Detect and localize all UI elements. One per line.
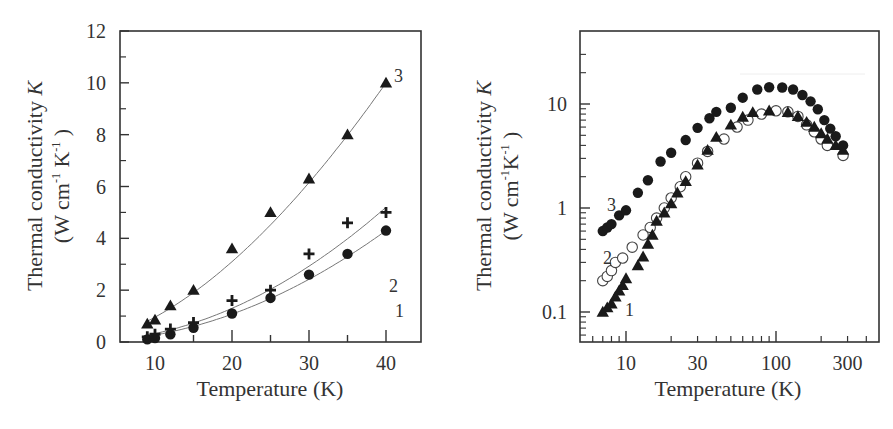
right-y-axis-title: Thermal conductivity K (W cm-1K-1 ) xyxy=(471,80,523,292)
right-series-label-3: 3 xyxy=(607,195,616,215)
right-y-tick-label: 1 xyxy=(557,197,567,219)
left-y-tick-label: 2 xyxy=(96,279,106,301)
left-point-series-1 xyxy=(342,249,352,259)
right-series-label-2: 2 xyxy=(603,248,612,268)
right-point-series-3 xyxy=(692,123,702,133)
left-point-series-3 xyxy=(226,243,238,254)
left-series-label-3: 3 xyxy=(394,66,403,86)
right-point-series-1 xyxy=(637,251,649,262)
right-point-series-3 xyxy=(621,205,631,215)
right-x-tick-label: 100 xyxy=(761,352,791,374)
right-point-series-3 xyxy=(606,219,616,229)
right-point-series-3 xyxy=(726,103,736,113)
left-y-tick-label: 6 xyxy=(96,176,106,198)
svg-text:Thermal conductivity K: Thermal conductivity K xyxy=(471,80,496,292)
left-y-axis-title: Thermal conductivity K (W cm-1 K-1 ) xyxy=(22,80,74,292)
right-point-series-3 xyxy=(830,131,840,141)
left-point-series-2 xyxy=(227,295,238,306)
left-x-tick-label: 40 xyxy=(376,352,396,374)
left-point-series-2 xyxy=(304,248,315,259)
left-point-series-3 xyxy=(380,77,392,88)
figure-canvas: 024681012 10203040 3 2 1 Temperature (K)… xyxy=(0,0,893,429)
left-x-tick-label: 20 xyxy=(222,352,242,374)
right-point-series-3 xyxy=(633,188,643,198)
right-point-series-2 xyxy=(617,253,627,263)
left-series-label-2: 2 xyxy=(389,276,398,296)
svg-text:(W cm-1 K-1 ): (W cm-1 K-1 ) xyxy=(49,129,74,243)
left-data-points xyxy=(141,77,392,345)
right-point-series-2 xyxy=(627,242,637,252)
right-data-points xyxy=(597,82,850,317)
right-point-series-3 xyxy=(752,84,762,94)
left-point-series-2 xyxy=(381,207,392,218)
right-point-series-3 xyxy=(738,92,748,102)
right-point-series-3 xyxy=(666,148,676,158)
left-x-axis-ticks: 10203040 xyxy=(145,330,396,374)
right-series-label-1: 1 xyxy=(625,300,634,320)
left-x-tick-label: 30 xyxy=(299,352,319,374)
left-x-axis-title: Temperature (K) xyxy=(197,376,344,401)
right-y-tick-label: 0.1 xyxy=(542,301,567,323)
right-point-series-3 xyxy=(655,156,665,166)
right-x-axis-title: Temperature (K) xyxy=(655,376,802,401)
right-point-series-3 xyxy=(764,82,774,92)
left-y-tick-label: 0 xyxy=(96,331,106,353)
svg-text:(W cm-1K-1 ): (W cm-1K-1 ) xyxy=(498,132,523,241)
left-y-tick-label: 4 xyxy=(96,227,106,249)
left-point-series-2 xyxy=(265,285,276,296)
right-point-series-3 xyxy=(711,107,721,117)
left-fit-curve-3 xyxy=(147,83,386,321)
right-point-series-3 xyxy=(838,140,848,150)
left-point-series-1 xyxy=(227,308,237,318)
left-fit-curve-2 xyxy=(147,207,386,335)
right-point-series-3 xyxy=(643,175,653,185)
left-x-tick-label: 10 xyxy=(145,352,165,374)
left-y-tick-label: 8 xyxy=(96,124,106,146)
left-y-tick-label: 12 xyxy=(86,20,106,42)
left-y-axis-ticks: 024681012 xyxy=(86,20,129,353)
right-x-tick-label: 10 xyxy=(616,352,636,374)
left-series-label-1: 1 xyxy=(395,301,404,321)
left-fit-curve-1 xyxy=(147,231,386,337)
right-point-series-3 xyxy=(813,104,823,114)
left-point-series-3 xyxy=(264,206,276,217)
right-point-series-3 xyxy=(777,82,787,92)
right-point-series-3 xyxy=(819,115,829,125)
right-point-series-1 xyxy=(620,272,632,283)
right-point-series-3 xyxy=(788,84,798,94)
right-x-axis-ticks: 1030100300 xyxy=(593,331,867,374)
left-point-series-2 xyxy=(342,217,353,228)
left-point-series-1 xyxy=(304,269,314,279)
right-point-series-3 xyxy=(680,135,690,145)
right-x-tick-label: 30 xyxy=(688,352,708,374)
right-chart: 0.1110 1030100300 3 2 1 Temperature (K) … xyxy=(471,31,879,401)
right-y-axis-ticks: 0.1110 xyxy=(542,54,590,335)
left-chart: 024681012 10203040 3 2 1 Temperature (K)… xyxy=(22,20,421,401)
right-y-tick-label: 10 xyxy=(547,93,567,115)
left-point-series-1 xyxy=(381,225,391,235)
left-y-tick-label: 10 xyxy=(86,72,106,94)
right-point-series-3 xyxy=(805,96,815,106)
right-x-tick-label: 300 xyxy=(833,352,863,374)
svg-text:Thermal conductivity K: Thermal conductivity K xyxy=(22,80,47,292)
right-point-series-3 xyxy=(797,90,807,100)
